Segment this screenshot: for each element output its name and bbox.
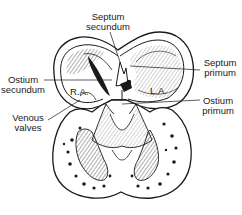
label-septum-primum: Septum primum — [198, 58, 242, 78]
label-right-atrium: R.A. — [70, 86, 88, 97]
label-ostium-secundum: Ostium secundum — [0, 75, 46, 95]
label-septum-secundum: Septum secundum — [78, 12, 138, 32]
label-ostium-primum: Ostium primum — [196, 96, 240, 116]
label-left-atrium: L.A. — [150, 85, 167, 96]
label-venous-valves: Venous valves — [6, 113, 50, 133]
heart-septation-diagram: Septum secundum Septum primum Ostium sec… — [0, 0, 242, 215]
